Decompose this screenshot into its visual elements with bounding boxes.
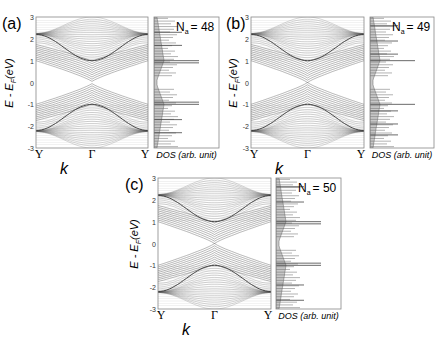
panel-a: (a) E - EF(eV) 3210-1-2-3 Y Γ Y k DOS (a…	[2, 14, 219, 177]
xtick-Y-right: Y	[141, 147, 150, 161]
panel-b: (b) E - EF(eV) 3210-1-2-3 Y Γ Y k DOS (a…	[226, 14, 434, 177]
ytick-label: -2	[28, 123, 34, 130]
ytick-label: -2	[243, 123, 249, 130]
ytick-label: 3	[245, 14, 249, 21]
ytick-label: -3	[150, 306, 156, 313]
x-ticks: Y Γ Y	[250, 147, 366, 161]
svg-text:E - EF(eV): E - EF(eV)	[3, 58, 17, 108]
atom-count-annotation: Na= 49	[392, 20, 431, 35]
ytick-label: -1	[28, 101, 34, 108]
dos-plot-frame	[276, 178, 341, 309]
ytick-label: 3	[152, 175, 156, 182]
panel-label: (a)	[2, 15, 22, 32]
xtick-Gamma: Γ	[89, 147, 96, 161]
dos-plot-frame	[370, 17, 434, 148]
dos-axis-label: DOS (arb. unit)	[156, 150, 217, 160]
dos-axis-label: DOS (arb. unit)	[372, 150, 433, 160]
dos-plot-frame	[154, 17, 219, 148]
figure-canvas: (a) E - EF(eV) 3210-1-2-3 Y Γ Y k DOS (a…	[0, 0, 448, 344]
xtick-Y-right: Y	[264, 308, 273, 322]
atom-count-annotation: Na= 48	[176, 20, 215, 35]
xtick-Y-right: Y	[357, 147, 366, 161]
dos-plot	[276, 178, 321, 309]
ytick-label: 1	[152, 219, 156, 226]
xtick-Y-left: Y	[35, 147, 44, 161]
band-structure-plot	[158, 178, 271, 309]
ytick-label: -1	[243, 101, 249, 108]
panel-c: (c) E - EF(eV) 3210-1-2-3 Y Γ Y k DOS (a…	[125, 175, 341, 338]
xtick-Y-left: Y	[250, 147, 259, 161]
panel-label: (b)	[226, 15, 246, 32]
ylabel-main: E - E	[3, 83, 15, 108]
band-structure-plot	[36, 17, 148, 148]
y-ticks: 3210-1-2-3	[243, 14, 249, 152]
y-ticks: 3210-1-2-3	[150, 175, 156, 313]
ylabel-unit: (eV)	[3, 58, 15, 79]
x-ticks: Y Γ Y	[157, 308, 273, 322]
ytick-label: 2	[245, 36, 249, 43]
ytick-label: -3	[28, 145, 34, 152]
dos-plot	[154, 17, 199, 148]
dos-axis-label: DOS (arb. unit)	[278, 311, 339, 321]
ytick-label: 2	[30, 36, 34, 43]
ytick-label: 0	[152, 241, 156, 248]
ytick-label: -3	[243, 145, 249, 152]
y-axis-label: E - EF(eV)	[227, 58, 241, 108]
panel-label: (c)	[125, 176, 144, 193]
xtick-Y-left: Y	[157, 308, 166, 322]
ytick-label: 1	[245, 58, 249, 65]
atom-count-annotation: Na= 50	[298, 181, 337, 196]
y-ticks: 3210-1-2-3	[28, 14, 34, 152]
ytick-label: 1	[30, 58, 34, 65]
x-axis-label: k	[60, 160, 69, 177]
dos-plot	[370, 17, 415, 148]
ytick-label: 0	[30, 80, 34, 87]
x-axis-label: k	[275, 160, 284, 177]
xtick-Gamma: Γ	[211, 308, 218, 322]
ytick-label: 3	[30, 14, 34, 21]
y-axis-label: E - EF(eV)	[3, 58, 17, 108]
figure: (a) E - EF(eV) 3210-1-2-3 Y Γ Y k DOS (a…	[0, 0, 448, 344]
ytick-label: 0	[245, 80, 249, 87]
svg-text:E - EF(eV): E - EF(eV)	[128, 219, 142, 269]
y-axis-label: E - EF(eV)	[128, 219, 142, 269]
ytick-label: -1	[150, 262, 156, 269]
ytick-label: -2	[150, 284, 156, 291]
xtick-Gamma: Γ	[304, 147, 311, 161]
ytick-label: 2	[152, 197, 156, 204]
svg-text:E - EF(eV): E - EF(eV)	[227, 58, 241, 108]
x-axis-label: k	[182, 321, 191, 338]
x-ticks: Y Γ Y	[35, 147, 150, 161]
band-structure-plot	[251, 17, 364, 148]
